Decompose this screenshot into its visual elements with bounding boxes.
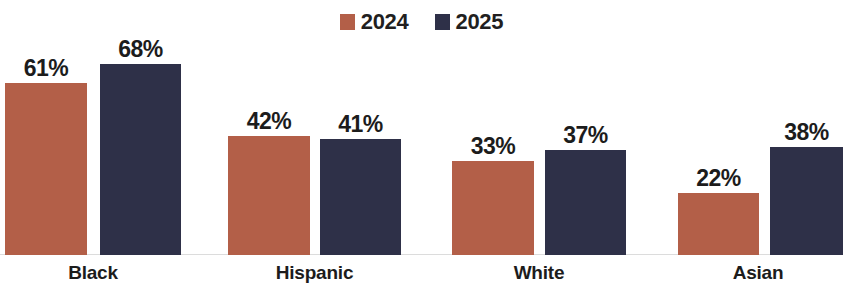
legend-swatch-2025 (435, 14, 450, 30)
cat-label-black: Black (5, 263, 181, 282)
cat-label-white: White (452, 263, 626, 282)
bar-value-label: 42% (247, 110, 292, 133)
bar-chart: 61%68%42%41%33%37%22%38% BlackHispanicWh… (0, 0, 843, 294)
legend-item-2024[interactable]: 2024 (340, 11, 409, 33)
cat-label-hispanic: Hispanic (228, 263, 401, 282)
bar-value-label: 38% (784, 121, 829, 144)
legend-label: 2024 (361, 11, 409, 33)
bar-value-label: 22% (696, 167, 741, 190)
legend-item-2025[interactable]: 2025 (435, 11, 504, 33)
plot-area: 61%68%42%41%33%37%22%38% BlackHispanicWh… (0, 0, 843, 294)
bar-value-label: 68% (118, 38, 163, 61)
bar-value-label: 37% (563, 124, 608, 147)
bar-value-label: 41% (338, 113, 383, 136)
bar-white-2025[interactable]: 37% (545, 150, 626, 255)
bar-black-2024[interactable]: 61% (5, 83, 87, 255)
cat-label-asian: Asian (678, 263, 838, 282)
bar-black-2025[interactable]: 68% (100, 64, 181, 255)
bar-asian-2024[interactable]: 22% (678, 193, 759, 255)
bar-value-label: 61% (24, 57, 69, 80)
bar-hispanic-2024[interactable]: 42% (228, 136, 310, 255)
bar-hispanic-2025[interactable]: 41% (320, 139, 401, 255)
bar-asian-2025[interactable]: 38% (770, 147, 843, 255)
legend-swatch-2024 (340, 14, 355, 30)
chart-legend: 20242025 (0, 10, 843, 34)
bar-value-label: 33% (471, 135, 516, 158)
legend-label: 2025 (456, 11, 504, 33)
bar-white-2024[interactable]: 33% (452, 161, 534, 255)
